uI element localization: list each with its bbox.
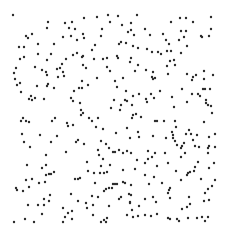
dot [57, 76, 59, 78]
dot [100, 35, 102, 37]
dot [163, 120, 165, 122]
dot [43, 204, 45, 206]
dot [92, 204, 94, 206]
dot [204, 88, 206, 90]
dot [120, 104, 122, 106]
dot [39, 134, 41, 136]
dot [41, 213, 43, 215]
dot [87, 170, 89, 172]
dot [180, 179, 182, 181]
dot [185, 17, 187, 19]
dot [93, 58, 95, 60]
dot [167, 192, 169, 194]
dot [126, 150, 128, 152]
dot [12, 14, 14, 16]
dot [116, 86, 118, 88]
dot [71, 218, 73, 220]
dot [181, 88, 183, 90]
dot [213, 162, 215, 164]
dot [97, 196, 99, 198]
dot [114, 151, 116, 153]
dot [94, 44, 96, 46]
dot [131, 104, 133, 106]
dot [117, 57, 119, 59]
dot [103, 190, 105, 192]
dot [92, 214, 94, 216]
dot [41, 167, 43, 169]
dot [13, 72, 15, 74]
dot [157, 51, 159, 53]
dot [150, 93, 152, 95]
dot [145, 69, 147, 71]
dot [65, 151, 67, 153]
dot [43, 98, 45, 100]
dot [204, 220, 206, 222]
dot [25, 179, 27, 181]
dot [186, 174, 188, 176]
dot [28, 186, 30, 188]
dot [166, 50, 168, 52]
dot [205, 99, 207, 101]
dot [64, 22, 66, 24]
dot [208, 199, 210, 201]
dot [178, 39, 180, 41]
dot [49, 194, 51, 196]
dot [47, 21, 49, 23]
dot [169, 197, 171, 199]
dot [132, 216, 134, 218]
dot [101, 28, 103, 30]
dot [144, 198, 146, 200]
dot [194, 166, 196, 168]
dot [59, 67, 61, 69]
dot [110, 107, 112, 109]
dot [31, 99, 33, 101]
dot [122, 152, 124, 154]
dot [51, 120, 53, 122]
dot [171, 131, 173, 133]
dot [53, 171, 55, 173]
dot [151, 51, 153, 53]
dot [102, 58, 104, 60]
dot [100, 221, 102, 223]
dot [75, 141, 77, 143]
dot [45, 71, 47, 73]
dot [178, 220, 180, 222]
dot [114, 80, 116, 82]
dot [27, 204, 29, 206]
dot [19, 58, 21, 60]
dot [131, 117, 133, 119]
dot [133, 34, 135, 36]
dot [23, 46, 25, 48]
dot [54, 117, 56, 119]
dot [214, 146, 216, 148]
dot [138, 205, 140, 207]
dot [130, 184, 132, 186]
dot [53, 43, 55, 45]
dot [106, 66, 108, 68]
dot [129, 137, 131, 139]
dot [197, 161, 199, 163]
dot [16, 189, 18, 191]
dot [214, 133, 216, 135]
dot [105, 143, 107, 145]
dot [127, 31, 129, 33]
dot [156, 120, 158, 122]
dot [79, 102, 81, 104]
dot [45, 154, 47, 156]
dot [96, 16, 98, 18]
dot [117, 15, 119, 17]
dot [169, 218, 171, 220]
dot [121, 24, 123, 26]
dot [34, 97, 36, 99]
dot [62, 221, 64, 223]
dot [82, 33, 84, 35]
dot [130, 57, 132, 59]
dot [190, 133, 192, 135]
dot [125, 42, 127, 44]
dot [193, 170, 195, 172]
dot [131, 209, 133, 211]
dot [50, 173, 52, 175]
dot [168, 43, 170, 45]
dot [208, 35, 210, 37]
dot [184, 152, 186, 154]
